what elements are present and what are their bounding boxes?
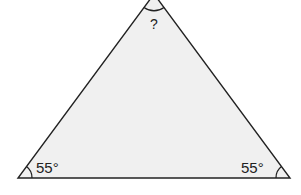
bottom-right-angle-label: 55° (241, 159, 264, 176)
triangle-diagram: ? 55° 55° (0, 0, 301, 195)
bottom-left-angle-label: 55° (36, 159, 59, 176)
apex-angle-label: ? (150, 16, 158, 32)
